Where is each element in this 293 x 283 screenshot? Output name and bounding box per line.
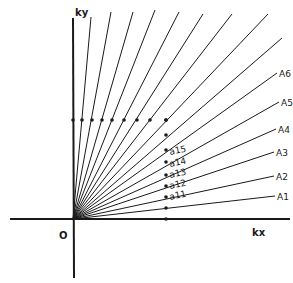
lattice-dot [164, 206, 168, 210]
a-label: a11 [168, 189, 187, 202]
lattice-dot [164, 173, 168, 177]
origin-label: O [59, 230, 68, 241]
k-space-ray-diagram: ky kx O A6A5A4A3A2A1 a15a14a13a12a11 [0, 0, 293, 283]
lattice-dot [80, 118, 84, 122]
kx-axis-label: kx [252, 227, 266, 238]
lattice-dot [164, 217, 168, 221]
lattice-dot [164, 160, 168, 164]
lattice-dot [148, 118, 152, 122]
lattice-dot [90, 118, 94, 122]
lattice-dot [135, 118, 139, 122]
lattice-dot [122, 118, 126, 122]
lattice-dot [164, 195, 168, 199]
A-label: A2 [276, 172, 288, 182]
A-label: A4 [278, 125, 290, 135]
A-label: A3 [276, 148, 288, 158]
a-labels: a15a14a13a12a11 [168, 144, 187, 202]
ky-axis [73, 18, 74, 278]
ray-line [73, 12, 111, 219]
lattice-dot [164, 148, 168, 152]
A-label: A5 [281, 98, 293, 108]
A-label: A1 [277, 192, 289, 202]
lattice-dot [164, 118, 168, 122]
A-labels: A6A5A4A3A2A1 [276, 69, 293, 202]
lattice-dot [71, 118, 75, 122]
lattice-dot [100, 118, 104, 122]
A-label: A6 [279, 69, 291, 79]
ray-line [73, 14, 232, 219]
ky-axis-label: ky [75, 7, 89, 18]
lattice-dot [164, 184, 168, 188]
lattice-dot [110, 118, 114, 122]
lattice-dot [164, 133, 168, 137]
